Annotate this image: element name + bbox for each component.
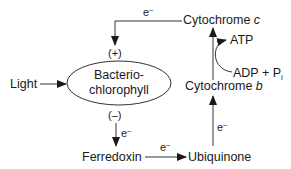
edge-cytc-to-bchl: e–: [115, 6, 182, 45]
electron-label-bottom: e–: [160, 141, 170, 153]
negative-charge-label: (–): [108, 109, 121, 121]
atp-synthesis-curve: ATP ADP + Pi: [215, 33, 283, 82]
bacteriochlorophyll-label-2: chlorophyll: [89, 83, 149, 97]
node-bacteriochlorophyll: Bacterio- chlorophyll: [67, 61, 171, 105]
atp-label: ATP: [230, 33, 253, 47]
adp-pi-label: ADP + Pi: [233, 66, 283, 82]
positive-charge-label: (+): [108, 47, 122, 59]
light-label: Light: [10, 77, 38, 91]
electron-label-down: e–: [121, 127, 131, 139]
edge-bchl-to-ferredoxin: e–: [116, 123, 131, 146]
ferredoxin-label: Ferredoxin: [82, 150, 142, 164]
ubiquinone-label: Ubiquinone: [188, 150, 251, 164]
edge-ubiquinone-to-cytb: e–: [213, 96, 227, 146]
cyclic-photophosphorylation-diagram: e– (+) Bacterio- chlorophyll Light (–) e…: [0, 0, 291, 169]
electron-label-right: e–: [217, 121, 227, 133]
bacteriochlorophyll-label-1: Bacterio-: [94, 68, 144, 82]
electron-label-top: e–: [143, 6, 153, 18]
edge-light-to-bchl: Light: [10, 77, 66, 91]
cytochrome-b-label: Cytochrome b: [185, 79, 263, 93]
cytochrome-c-label: Cytochrome c: [183, 13, 261, 27]
edge-ferredoxin-to-ubiquinone: e–: [145, 141, 186, 157]
